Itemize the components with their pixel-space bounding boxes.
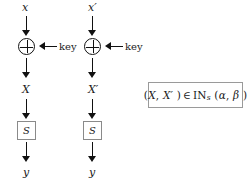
condition-beta: β [233,89,239,101]
right-mid-label: X′ [88,84,98,95]
left-key-label: key [59,42,77,52]
left-sbox: S [17,121,36,140]
membership-icon: ∈ [181,89,193,101]
right-key-label: key [125,42,143,52]
condition-comma: , [156,89,160,101]
right-xor-icon [84,38,101,55]
condition-set-subscript: s [207,93,211,102]
right-input-label: x′ [88,2,97,13]
condition-alpha: α [219,89,226,101]
left-output-label: y [23,167,29,178]
condition-first-term: X [148,89,156,101]
right-output-label: y [89,167,95,178]
right-arrow-sbox-to-output [88,142,97,162]
left-arrow-X-to-sbox [22,99,31,119]
right-key-arrow [105,42,123,51]
left-arrow-xor-to-X [22,58,31,78]
condition-args-comma: , [226,89,230,101]
diagram-canvas: x key X S y x′ key X′ [0,0,247,186]
condition-set-name: IN [193,89,207,101]
right-arrow-input-to-xor [88,16,97,36]
condition-args-close: ) [243,89,247,101]
left-xor-icon [18,38,35,55]
right-arrow-xor-to-X [88,58,97,78]
condition-second-term: X′ [163,89,173,101]
left-input-label: x [22,2,28,13]
left-mid-label: X [22,84,30,95]
left-key-arrow [39,42,57,51]
left-arrow-sbox-to-output [22,142,31,162]
right-sbox: S [83,121,102,140]
left-arrow-input-to-xor [22,16,31,36]
right-arrow-X-to-sbox [88,99,97,119]
condition-box: (X, X′ )∈INs (α, β ) [148,82,243,108]
